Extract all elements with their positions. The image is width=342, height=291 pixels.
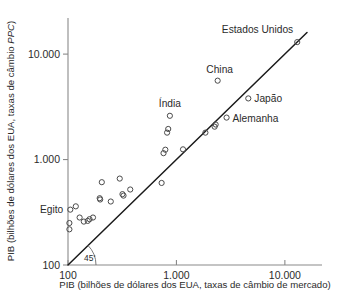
data-point <box>99 180 104 185</box>
data-point <box>77 215 82 220</box>
x-axis-title: PIB (bilhões de dólares dos EUA, taxas d… <box>59 279 330 290</box>
data-point-label: Índia <box>159 97 181 109</box>
data-points-group <box>67 39 300 231</box>
data-point-label: Egito <box>40 204 64 215</box>
data-point <box>73 204 78 209</box>
data-point-índia <box>167 113 172 118</box>
y-tick-label: 1.000 <box>34 153 60 165</box>
data-point-alemanha <box>224 115 229 120</box>
reference-line-45deg <box>68 33 307 265</box>
data-point-china <box>215 78 220 83</box>
data-point-label: China <box>206 64 233 75</box>
y-tick-label: 10.000 <box>28 48 60 60</box>
y-axis-ticks <box>63 54 68 265</box>
y-axis-title: PIB (bilhões de dólares dos EUA, taxas d… <box>5 21 16 262</box>
data-point <box>180 147 185 152</box>
data-point <box>128 187 133 192</box>
scatter-chart-figure: 1001.00010.000 1001.00010.000 45° Estado… <box>0 0 342 291</box>
angle-label: 45° <box>84 253 96 263</box>
data-point <box>108 199 113 204</box>
data-point-label: Japão <box>254 93 282 104</box>
data-point-label: Estados Unidos <box>222 24 293 35</box>
y-tick-label: 100 <box>42 259 60 271</box>
chart-svg: 1001.00010.000 1001.00010.000 45° Estado… <box>0 0 342 291</box>
data-point-labels-group: Estados UnidosChinaJapãoAlemanhaÍndiaEgi… <box>40 24 293 215</box>
data-point <box>117 176 122 181</box>
x-axis-ticks <box>68 260 285 265</box>
data-point <box>121 193 126 198</box>
y-axis-tick-labels: 1001.00010.000 <box>28 48 60 271</box>
data-point-japão <box>246 96 251 101</box>
data-point <box>159 180 164 185</box>
data-point-label: Alemanha <box>233 113 279 124</box>
